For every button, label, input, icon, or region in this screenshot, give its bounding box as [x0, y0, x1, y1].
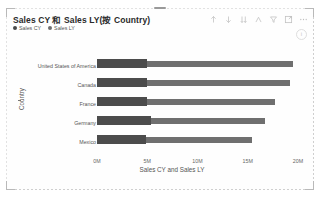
x-axis-tick-0: 0M [93, 158, 100, 164]
x-axis-title: Sales CY and Sales LY [6, 166, 314, 173]
bar-sales-cy-1[interactable] [97, 78, 147, 87]
x-axis-title-text: Sales CY and Sales LY [140, 166, 205, 173]
chart-bars-layer [6, 8, 314, 190]
x-axis-tick-2: 10M [192, 158, 202, 164]
x-axis-tick-4: 20M [293, 158, 303, 164]
x-axis-tick-3: 15M [243, 158, 253, 164]
bar-sales-cy-2[interactable] [97, 97, 147, 106]
power-bi-visual-container[interactable]: Sales CY 和 Sales LY(按 Country) Sales CY … [6, 8, 314, 190]
x-axis-tick-1: 5M [144, 158, 151, 164]
bar-sales-cy-0[interactable] [97, 59, 147, 68]
bar-sales-cy-4[interactable] [97, 135, 146, 144]
chart-plot-area[interactable]: Country United States of America Canada … [6, 8, 314, 190]
bar-sales-cy-3[interactable] [97, 116, 151, 125]
